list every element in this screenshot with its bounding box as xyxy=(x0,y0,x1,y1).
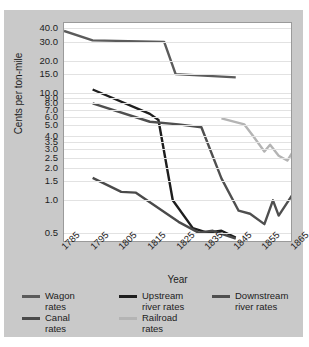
gridline xyxy=(64,125,291,126)
chart-series-layer xyxy=(64,23,292,242)
legend-swatch xyxy=(119,317,137,320)
y-axis-tick-label: 20.0 xyxy=(40,55,59,64)
gridline xyxy=(64,142,291,143)
plot-area xyxy=(63,22,292,242)
gridline xyxy=(64,74,291,75)
series-line xyxy=(93,178,236,239)
legend-label: Downstream river rates xyxy=(235,291,288,312)
y-axis-tick-label: 5.0 xyxy=(45,120,58,129)
x-axis-title: Year xyxy=(63,274,292,285)
gridline xyxy=(64,42,291,43)
gridline xyxy=(64,93,291,94)
y-axis-tick-labels: 40.030.020.015.010.09.08.07.06.05.04.03.… xyxy=(4,22,61,242)
chart-legend: Wagon ratesUpstream river ratesDownstrea… xyxy=(14,291,299,335)
legend-swatch xyxy=(22,317,40,320)
series-line xyxy=(64,31,236,78)
legend-row-1: Wagon ratesUpstream river ratesDownstrea… xyxy=(14,291,299,313)
y-axis-tick-label: 0.5 xyxy=(45,227,58,236)
y-axis-tick-label: 2.5 xyxy=(45,152,58,161)
series-line xyxy=(93,89,236,237)
gridline xyxy=(64,200,291,201)
legend-item[interactable]: Railroad rates xyxy=(119,313,177,334)
y-axis-tick-label: 40.0 xyxy=(40,23,59,32)
plot-wrapper xyxy=(63,22,292,242)
gridline xyxy=(64,117,291,118)
legend-swatch xyxy=(119,295,137,298)
gridline xyxy=(64,149,291,150)
y-axis-tick-label: 15.0 xyxy=(40,69,59,78)
y-axis-tick-label: 30.0 xyxy=(40,36,59,45)
gridline xyxy=(64,98,291,99)
legend-item[interactable]: Wagon rates xyxy=(22,291,75,312)
x-axis-tick-labels: 178517951805181518251835184518551865 xyxy=(63,244,292,278)
legend-item[interactable]: Canal rates xyxy=(22,313,70,334)
legend-label: Upstream river rates xyxy=(142,291,184,312)
gridline xyxy=(64,168,291,169)
legend-item[interactable]: Upstream river rates xyxy=(119,291,184,312)
legend-label: Wagon rates xyxy=(45,291,75,312)
gridline xyxy=(64,136,291,137)
legend-item[interactable]: Downstream river rates xyxy=(212,291,288,312)
gridline xyxy=(64,110,291,111)
y-axis-tick-label: 1.5 xyxy=(45,176,58,185)
legend-label: Railroad rates xyxy=(142,313,177,334)
series-line xyxy=(93,103,292,224)
y-axis-tick-label: 1.0 xyxy=(45,195,58,204)
gridline xyxy=(64,103,291,104)
legend-label: Canal rates xyxy=(45,313,70,334)
legend-swatch xyxy=(212,295,230,298)
gridline xyxy=(64,158,291,159)
legend-swatch xyxy=(22,295,40,298)
y-axis-tick-label: 2.0 xyxy=(45,163,58,172)
legend-row-2: Canal ratesRailroad rates xyxy=(14,313,299,335)
gridline xyxy=(64,61,291,62)
gridline xyxy=(64,28,291,29)
gridline xyxy=(64,181,291,182)
chart-figure: Cents per ton-mile 40.030.020.015.010.09… xyxy=(4,10,303,337)
